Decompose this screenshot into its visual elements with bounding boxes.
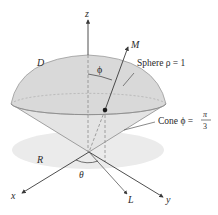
phi-label: ϕ: [97, 64, 102, 75]
sphere-label: Sphere ρ = 1: [137, 58, 186, 68]
spherical-coordinates-diagram: z M D ϕ Sphere ρ = 1 Cone ϕ = π 3 R θ x …: [0, 0, 218, 215]
r-label: R: [36, 154, 43, 165]
cone-fraction-numerator: π: [203, 110, 208, 119]
point: [103, 108, 108, 113]
y-axis-label: y: [165, 194, 171, 205]
theta-label: θ: [79, 170, 84, 180]
cone-label: Cone ϕ =: [158, 116, 193, 126]
cone-fraction-denominator: 3: [203, 122, 207, 131]
m-label: M: [130, 39, 140, 50]
d-label: D: [36, 57, 45, 68]
l-label: L: [127, 194, 134, 205]
x-axis-label: x: [10, 190, 16, 201]
z-axis-label: z: [84, 8, 89, 19]
